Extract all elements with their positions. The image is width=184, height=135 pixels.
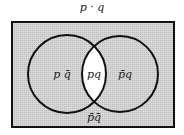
label-not-p-not-q: p̄q̄ <box>87 111 101 124</box>
venn-diagram: p q̄ pq p̄q p̄q̄ <box>0 0 184 135</box>
label-p-not-q: p q̄ <box>53 68 71 81</box>
label-not-p-q: p̄q <box>118 68 132 81</box>
label-pq: pq <box>87 68 101 81</box>
